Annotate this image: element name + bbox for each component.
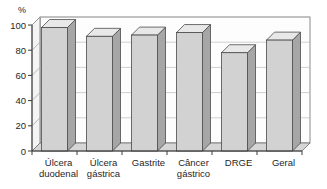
bar-5 [222, 45, 256, 151]
bar-side [248, 45, 256, 151]
bar-front [222, 53, 248, 151]
bar-front [132, 35, 158, 151]
bar-front [177, 33, 203, 151]
x-axis-category-labels: ÚlceraduodenalÚlceragástricaGastriteCânc… [39, 157, 295, 179]
y-tick-label-20: 20 [15, 120, 26, 131]
bar-4 [177, 25, 211, 151]
x-category-label-6: Geral [272, 157, 295, 168]
y-tick-label-60: 60 [15, 70, 26, 81]
bar-side [68, 20, 76, 151]
x-category-label-3: Gastrite [132, 157, 165, 168]
x-category-label-1: Úlceraduodenal [39, 157, 78, 179]
bar-front [87, 36, 113, 151]
bar-6 [267, 32, 301, 151]
bar-chart: % 100 80 60 40 20 0 ÚlceraduodenalÚlcera… [0, 0, 327, 189]
bar-3 [132, 27, 166, 151]
y-tick-labels: 100 80 60 40 20 0 [10, 20, 26, 157]
y-axis [28, 25, 32, 151]
bar-side [203, 25, 211, 151]
x-axis-ticks [32, 151, 302, 155]
x-category-label-4: Câncergástrico [177, 157, 210, 179]
chart-canvas: % 100 80 60 40 20 0 ÚlceraduodenalÚlcera… [0, 0, 327, 189]
bar-front [42, 28, 68, 151]
y-tick-label-40: 40 [15, 95, 26, 106]
y-tick-label-0: 0 [21, 146, 26, 157]
bar-1 [42, 20, 76, 151]
bar-front [267, 40, 293, 151]
y-tick-label-100: 100 [10, 20, 26, 31]
y-axis-unit-label: % [18, 5, 26, 15]
bar-2 [87, 28, 121, 151]
bar-side [113, 28, 121, 151]
left-wall [32, 17, 40, 151]
bar-side [293, 32, 301, 151]
x-category-label-5: DRGE [225, 157, 252, 168]
x-category-label-2: Úlceragástrica [87, 157, 121, 179]
bar-side [158, 27, 166, 151]
y-tick-label-80: 80 [15, 45, 26, 56]
